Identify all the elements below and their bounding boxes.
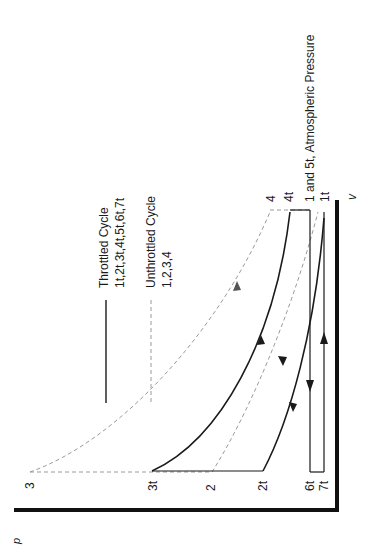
label-2t: 2t — [256, 480, 270, 491]
axis-label-p: p — [10, 538, 22, 545]
axis-label-v: v — [345, 193, 359, 200]
legend-unthrottled-title: Unthrottled Cycle — [144, 196, 158, 288]
label-2: 2 — [204, 484, 218, 491]
point-labels: 3 3t 2 2t 6t 7t 4 4t 1 and 5t, Atmospher… — [23, 34, 332, 491]
axes — [14, 200, 339, 511]
pv-diagram: Throttled Cycle 1t,2t,3t,4t,5t,6t,7t Unt… — [0, 0, 365, 552]
arrow-down-box-icon — [306, 380, 314, 392]
label-3: 3 — [23, 482, 37, 489]
legend-throttled-title: Throttled Cycle — [97, 207, 111, 288]
label-4t: 4t — [282, 191, 296, 202]
label-4: 4 — [264, 195, 278, 202]
throttled-cycle — [152, 210, 324, 472]
arrow-down-dashed-icon — [278, 356, 287, 366]
arrow-down-solid-icon — [289, 402, 297, 412]
compression-curve-1t-2t — [263, 218, 324, 471]
legend-throttled-points: 1t,2t,3t,4t,5t,6t,7t — [113, 197, 127, 288]
label-6t: 6t — [303, 480, 317, 491]
unthrottled-cycle — [30, 210, 318, 472]
compression-curve-1-2 — [212, 212, 318, 472]
arrow-up-box-icon — [320, 332, 328, 344]
label-3t: 3t — [146, 480, 160, 491]
expansion-curve-3t-4t — [152, 212, 290, 471]
label-7t: 7t — [317, 480, 331, 491]
label-1-5t-atmospheric: 1 and 5t, Atmospheric Pressure — [303, 34, 317, 202]
label-1t: 1t — [318, 191, 332, 202]
legend: Throttled Cycle 1t,2t,3t,4t,5t,6t,7t Unt… — [97, 196, 174, 403]
legend-unthrottled-points: 1,2,3,4 — [160, 251, 174, 288]
